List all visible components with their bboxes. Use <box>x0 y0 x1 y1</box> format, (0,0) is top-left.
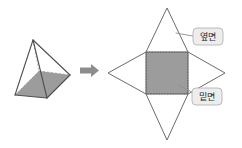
label-lateral-face-leader-line <box>176 33 193 36</box>
net-lateral-triangle-left <box>108 52 146 94</box>
transform-arrow <box>80 64 99 77</box>
geometry-figure: 옆면 밑면 <box>0 0 242 148</box>
arrow-right-icon <box>80 64 99 77</box>
label-lateral-face-text: 옆면 <box>200 32 216 42</box>
label-base-face-text: 밑면 <box>199 91 215 102</box>
pyramid-lateral-edge-right <box>33 40 70 75</box>
net-lateral-triangle-top <box>146 8 188 52</box>
pyramid-base-shaded-face <box>15 71 70 98</box>
figure-container: 옆면 밑면 <box>0 0 242 148</box>
net-base-square-shaded <box>146 52 188 94</box>
square-pyramid-solid <box>15 40 70 98</box>
net-lateral-triangle-bottom <box>146 94 188 140</box>
